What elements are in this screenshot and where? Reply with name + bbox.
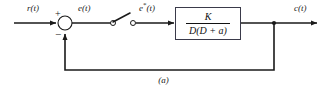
figure-caption: (a) <box>0 76 327 85</box>
summing-junction-minus-sign: − <box>55 29 61 40</box>
transfer-function-denominator: D(D + a) <box>186 25 230 37</box>
transfer-function-block[interactable]: K D(D + a) <box>175 7 241 40</box>
summing-junction-plus-sign: + <box>55 9 61 19</box>
sampler-blade-icon[interactable] <box>113 13 130 22</box>
sampler-right-contact-icon <box>131 21 136 26</box>
sampled-error-suffix: (t) <box>147 3 156 13</box>
error-signal-label: e(t) <box>78 4 91 13</box>
figure-container: K D(D + a) r(t) e(t) e*(t) c(t) + − (a) <box>0 0 327 92</box>
transfer-function-numerator: K <box>202 11 215 23</box>
output-signal-label: c(t) <box>294 4 307 13</box>
transfer-function-fraction: K D(D + a) <box>186 11 230 37</box>
feedback-path-line <box>65 23 274 70</box>
input-signal-label: r(t) <box>27 4 39 13</box>
fraction-bar <box>186 23 230 24</box>
sampled-error-signal-label: e*(t) <box>139 4 155 13</box>
